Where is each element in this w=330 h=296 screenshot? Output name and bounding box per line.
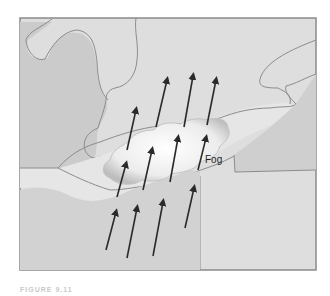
fog-diagram: Fog FIGURE 9.11 (0, 0, 330, 296)
map-illustration (0, 0, 330, 296)
fog-label: Fog (205, 154, 222, 165)
figure-caption: FIGURE 9.11 (20, 286, 73, 293)
